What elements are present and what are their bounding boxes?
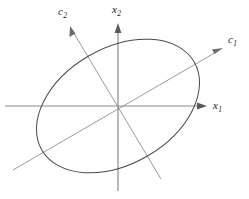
- axis-line-c2: [72, 30, 161, 179]
- figure-canvas: x1 x2 c1 c2: [0, 0, 249, 199]
- arrowhead-x1: [197, 103, 207, 110]
- arrowhead-c2: [70, 26, 76, 37]
- axis-label-x1-sub: 1: [218, 105, 222, 114]
- axis-label-x2-sub: 2: [117, 9, 121, 18]
- axis-label-x1: x1: [213, 100, 222, 111]
- axis-line-c1: [13, 51, 218, 170]
- axis-label-c2-sub: 2: [63, 11, 67, 20]
- axis-label-c1: c1: [228, 34, 237, 45]
- axis-label-c2: c2: [58, 6, 67, 17]
- axis-label-x2: x2: [112, 4, 121, 15]
- diagram-svg: [0, 0, 249, 199]
- arrowhead-x2: [115, 23, 122, 33]
- axis-label-c1-sub: 1: [233, 39, 237, 48]
